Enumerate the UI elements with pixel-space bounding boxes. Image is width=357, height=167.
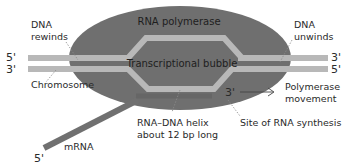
rna-polymerase-label: RNA polymerase xyxy=(137,16,220,27)
site-of-rna-synthesis-label: Site of RNA synthesis xyxy=(240,117,341,128)
mrna-label: mRNA xyxy=(64,141,94,152)
transcription-diagram: RNA polymerase Transcriptional bubble 5'… xyxy=(0,0,357,167)
dna-strand-top-left xyxy=(28,55,120,61)
rna-dna-helix-label-line2: about 12 bp long xyxy=(137,129,218,140)
dna-unwinds-label-line1: DNA xyxy=(294,19,315,30)
rna-3-end-label: 3' xyxy=(225,86,235,99)
polymerase-movement-label-line2: movement xyxy=(285,93,337,104)
dna-rewinds-label-line2: rewinds xyxy=(31,31,68,42)
transcriptional-bubble-label: Transcriptional bubble xyxy=(126,58,238,69)
left-bottom-end-label: 3' xyxy=(6,63,16,76)
rna-5-end-label: 5' xyxy=(34,152,44,165)
dna-rewinds-label-line1: DNA xyxy=(31,19,52,30)
chromosome-label: Chromosome xyxy=(31,79,94,90)
polymerase-movement-label-line1: Polymerase xyxy=(285,81,340,92)
dna-unwinds-label-line2: unwinds xyxy=(294,31,334,42)
dna-strand-bottom-left xyxy=(28,66,120,72)
rna-dna-helix-label-line1: RNA–DNA helix xyxy=(137,117,209,128)
dna-strand-bottom-right xyxy=(238,66,328,72)
right-bottom-end-label: 5' xyxy=(331,63,341,76)
